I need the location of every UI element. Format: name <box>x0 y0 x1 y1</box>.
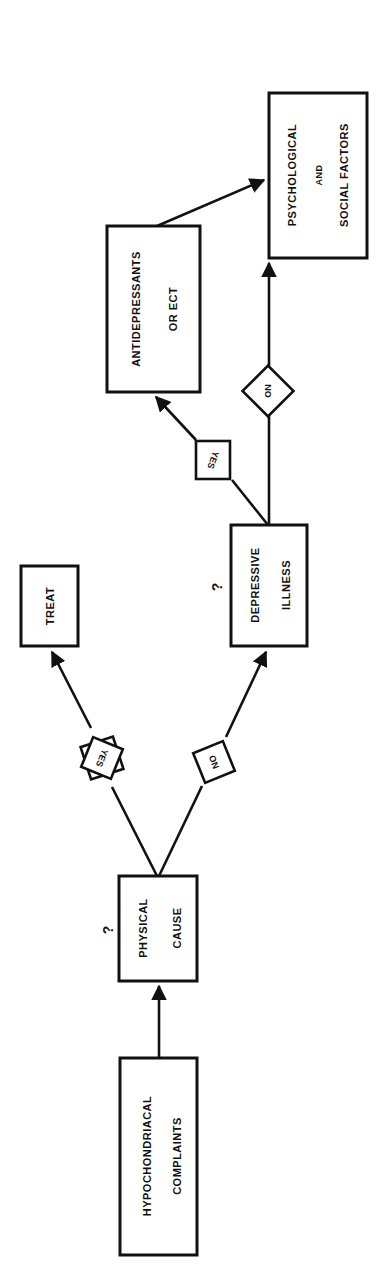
node-physical-cause: PHYSICAL CAUSE ? <box>100 876 197 981</box>
node-hypochondriacal-line2: COMPLAINTS <box>171 1117 183 1195</box>
node-hypochondriacal-line1: HYPOCHONDRIACAL <box>141 1096 153 1217</box>
edge-depressive-to-yes <box>232 480 268 525</box>
node-psych-line1: PSYCHOLOGICAL <box>286 124 298 226</box>
flowchart: HYPOCHONDRIACAL COMPLAINTS PHYSICAL CAUS… <box>0 0 387 1271</box>
node-treat-label: TREAT <box>44 587 56 625</box>
depressive-question-mark: ? <box>209 583 225 592</box>
edge-yes-to-treat <box>52 652 91 728</box>
node-depressive-line1: DEPRESSIVE <box>249 547 261 622</box>
edge-no-to-depressive <box>226 652 266 737</box>
edge-antidep-to-psych <box>157 180 264 226</box>
node-psychological-social-factors: PSYCHOLOGICAL AND SOCIAL FACTORS <box>269 93 367 258</box>
node-psych-line3: SOCIAL FACTORS <box>338 123 350 227</box>
node-depressive-illness: DEPRESSIVE ILLNESS ? <box>209 525 307 646</box>
node-depressive-line2: ILLNESS <box>280 560 292 610</box>
node-physical-line1: PHYSICAL <box>137 898 149 958</box>
edge-physical-to-yes <box>112 787 157 876</box>
node-antidep-line2: OR ECT <box>167 287 179 332</box>
node-antidep-line1: ANTIDEPRESSANTS <box>130 251 142 367</box>
node-hypochondriacal-complaints: HYPOCHONDRIACAL COMPLAINTS <box>120 1058 197 1255</box>
physical-question-mark: ? <box>100 926 116 935</box>
node-treat: TREAT <box>21 566 78 646</box>
node-antidepressants-or-ect: ANTIDEPRESSANTS OR ECT <box>107 226 200 392</box>
node-psych-line2: AND <box>314 165 324 186</box>
decision-depressive-no-label: NO <box>263 384 273 398</box>
edge-yes-to-antidep <box>156 397 196 440</box>
edge-physical-to-no <box>159 786 202 876</box>
node-physical-line2: CAUSE <box>171 907 183 948</box>
